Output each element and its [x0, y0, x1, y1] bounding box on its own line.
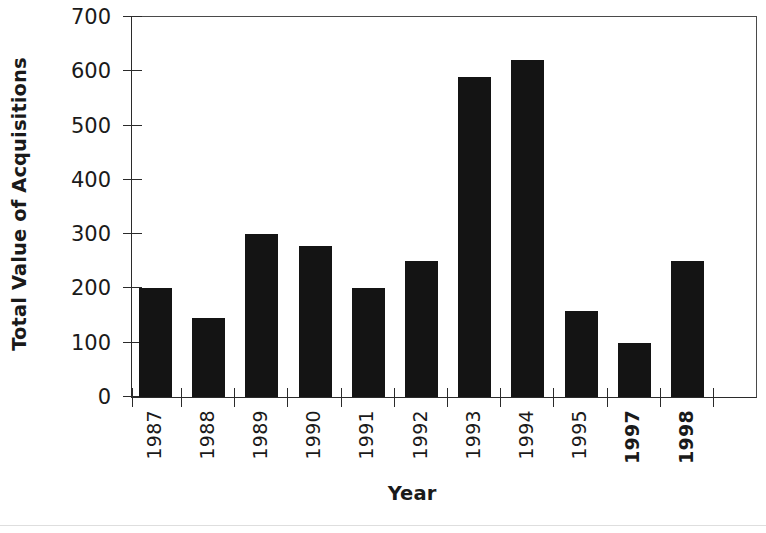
x-axis-tick [287, 388, 288, 407]
x-axis-tick-label: 1993 [464, 410, 483, 460]
x-axis-tick-label: 1990 [304, 410, 323, 460]
x-axis-tick-label: 1995 [570, 410, 589, 460]
y-axis-tick-label: 0 [98, 387, 111, 408]
x-axis-tick-label: 1998 [677, 410, 696, 464]
x-axis-tick [500, 388, 501, 407]
bar [565, 311, 598, 397]
bar [671, 261, 704, 397]
x-axis-tick [607, 388, 608, 407]
bar [458, 77, 491, 397]
x-axis-tick [394, 388, 395, 407]
bar [405, 261, 438, 397]
x-axis-tick-label: 1991 [357, 410, 376, 460]
bar [299, 246, 332, 397]
y-axis-tick: 400 [123, 179, 142, 180]
y-axis-tick-label: 500 [71, 115, 111, 136]
bar [618, 343, 651, 397]
y-axis-title: Total Value of Acquisitions [2, 0, 36, 414]
x-axis-tick [660, 388, 661, 407]
x-axis-tick [341, 388, 342, 407]
x-axis-tick [713, 388, 714, 407]
x-axis-tick-label: 1997 [623, 410, 642, 464]
bar [139, 288, 172, 397]
x-axis-title-text: Year [388, 482, 437, 505]
x-axis-tick [553, 388, 554, 407]
x-axis-tick-label: 1989 [251, 410, 270, 460]
x-axis-tick-label: 1992 [411, 410, 430, 460]
x-axis-title: Year [0, 482, 766, 505]
y-axis-tick: 600 [123, 70, 142, 71]
x-axis-tick-label: 1988 [198, 410, 217, 460]
x-axis-tick [447, 388, 448, 407]
y-axis-tick-label: 400 [71, 169, 111, 190]
y-axis-tick-label: 600 [71, 61, 111, 82]
bar [511, 60, 544, 397]
y-axis-tick-label: 300 [71, 224, 111, 245]
x-axis-tick [181, 388, 182, 407]
bar [192, 318, 225, 397]
y-axis-tick: 700 [123, 16, 142, 17]
x-axis-tick-label: 1987 [145, 410, 164, 460]
y-axis-tick: 300 [123, 233, 142, 234]
bar [352, 288, 385, 397]
bar [245, 234, 278, 397]
x-axis-tick-label: 1994 [517, 410, 536, 460]
y-axis-tick-label: 200 [71, 278, 111, 299]
y-axis-tick: 500 [123, 125, 142, 126]
scan-artifact-line [0, 525, 766, 526]
y-axis-tick-label: 100 [71, 332, 111, 353]
bar-chart-figure: Total Value of Acquisitions 010020030040… [0, 0, 766, 533]
x-axis-tick [234, 388, 235, 407]
y-axis-tick-label: 700 [71, 7, 111, 28]
x-axis-tick [132, 388, 133, 407]
plot-area: 0100200300400500600700 [131, 16, 757, 398]
